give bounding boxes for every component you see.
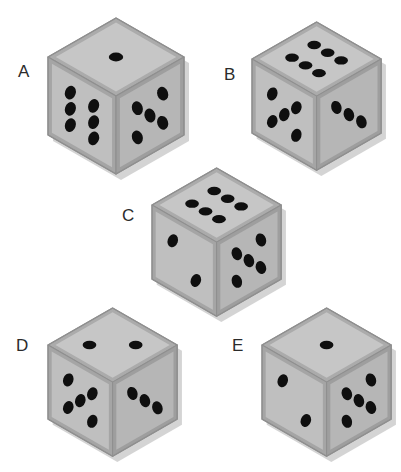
die-d <box>48 308 177 462</box>
die-label-e: E <box>232 337 243 354</box>
dice-figure-canvas: ABCDE <box>0 0 401 472</box>
die-b <box>252 22 381 176</box>
die-label-c: C <box>122 207 134 224</box>
die-pip <box>285 53 299 61</box>
die-c <box>152 168 281 322</box>
die-e <box>262 308 391 462</box>
die-pip <box>299 61 313 69</box>
die-pip <box>321 49 335 57</box>
die-pip <box>320 341 334 349</box>
die-pip <box>109 53 123 62</box>
die-pip <box>129 341 143 349</box>
die-pip <box>234 202 248 210</box>
die-label-b: B <box>224 66 235 83</box>
die-pip <box>312 69 326 77</box>
die-pip <box>199 207 213 215</box>
die-pip <box>334 56 348 64</box>
die-label-d: D <box>16 337 28 354</box>
die-pip <box>307 41 321 49</box>
die-pip <box>221 195 235 203</box>
die-pip <box>185 199 199 207</box>
die-pip <box>83 341 97 349</box>
die-pip <box>212 215 226 223</box>
die-label-a: A <box>18 63 29 80</box>
die-pip <box>207 187 221 195</box>
die-a <box>48 18 184 180</box>
